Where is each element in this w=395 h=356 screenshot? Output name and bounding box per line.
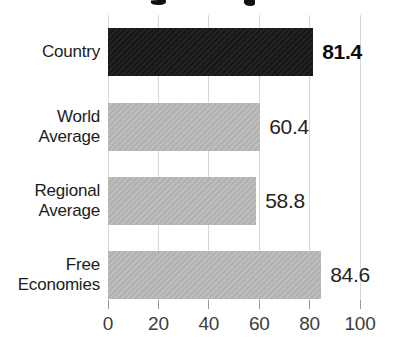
x-axis-tick	[259, 300, 260, 309]
category-label-regional-average: Regional Average	[0, 177, 100, 225]
x-axis-tick-label: 20	[133, 313, 183, 335]
bar-world-average	[108, 103, 260, 151]
x-axis-tick-label: 100	[335, 313, 385, 335]
bar-country	[108, 28, 313, 76]
bar-chart: CountryWorld AverageRegional AverageFree…	[0, 0, 395, 356]
category-label-country: Country	[0, 28, 100, 76]
category-label-world-average: World Average	[0, 103, 100, 151]
value-label-world-average: 60.4	[269, 103, 309, 151]
x-axis-tick-label: 40	[184, 313, 234, 335]
x-axis-tick	[158, 300, 159, 309]
x-axis-tick	[360, 300, 361, 309]
bar-free-economies	[108, 251, 321, 299]
cropped-title-fragment	[244, 0, 255, 6]
x-axis-tick	[108, 300, 109, 309]
x-axis-tick-label: 0	[83, 313, 133, 335]
x-axis-tick	[208, 300, 209, 309]
value-label-country: 81.4	[322, 28, 362, 76]
x-axis-tick-label: 80	[285, 313, 335, 335]
category-label-free-economies: Free Economies	[0, 251, 100, 299]
bar-regional-average	[108, 177, 256, 225]
cropped-title-fragment	[151, 0, 166, 6]
value-label-regional-average: 58.8	[265, 177, 305, 225]
value-label-free-economies: 84.6	[330, 251, 370, 299]
x-axis-tick	[309, 300, 310, 309]
x-axis-tick-label: 60	[234, 313, 284, 335]
